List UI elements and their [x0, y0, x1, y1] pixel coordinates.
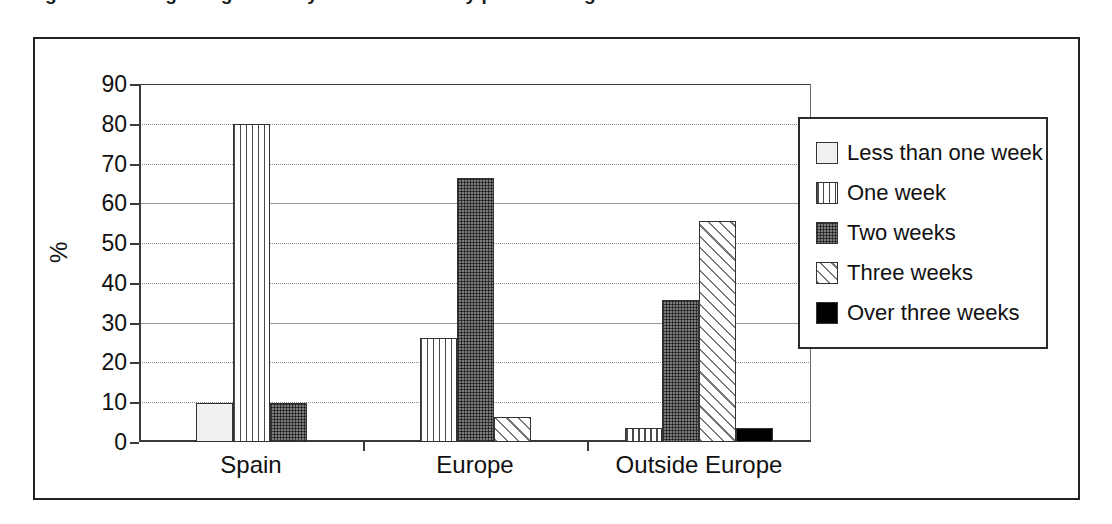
y-tick-mark-90 — [130, 84, 139, 86]
legend-swatch-icon-diagonal-hatch — [816, 262, 838, 284]
legend-item-one-week: One week — [816, 173, 1032, 213]
y-tick-label-60: 60 — [101, 190, 127, 217]
bar-europe-two-weeks — [457, 178, 494, 442]
y-tick-mark-0 — [130, 442, 139, 444]
bar-outside-europe-over-three-weeks — [736, 428, 773, 442]
y-tick-label-10: 10 — [101, 389, 127, 416]
y-tick-mark-30 — [130, 323, 139, 325]
gridline-90 — [139, 84, 811, 85]
y-tick-mark-20 — [130, 362, 139, 364]
chart-legend: Less than one weekOne weekTwo weeksThree… — [798, 117, 1048, 349]
legend-swatch-icon-solid-black — [816, 302, 838, 324]
y-axis-tick-labels: 9080706050403020100 — [75, 84, 127, 442]
legend-item-less-than-one-week: Less than one week — [816, 133, 1032, 173]
y-axis-title: % — [45, 242, 73, 263]
y-tick-mark-60 — [130, 203, 139, 205]
legend-label: One week — [847, 182, 946, 204]
x-axis-tick-labels: SpainEuropeOutside Europe — [139, 451, 811, 491]
bar-spain-less-than-one-week — [196, 403, 233, 442]
bar-spain-one-week — [233, 124, 270, 442]
figure-frame: % 9080706050403020100 SpainEuropeOutside… — [33, 37, 1080, 500]
x-tick-mark-1 — [363, 442, 365, 451]
y-axis-line — [139, 84, 141, 442]
x-tick-label-europe: Europe — [436, 451, 513, 479]
y-tick-label-50: 50 — [101, 230, 127, 257]
legend-item-three-weeks: Three weeks — [816, 253, 1032, 293]
bar-outside-europe-three-weeks — [699, 221, 736, 442]
legend-label: Three weeks — [847, 262, 973, 284]
bar-europe-three-weeks — [494, 417, 531, 442]
y-tick-mark-80 — [130, 124, 139, 126]
legend-label: Two weeks — [847, 222, 956, 244]
legend-item-over-three-weeks: Over three weeks — [816, 293, 1032, 333]
legend-swatch-icon-vertical-stripes — [816, 182, 838, 204]
legend-swatch-icon-dark-stipple — [816, 222, 838, 244]
bar-outside-europe-one-week — [625, 428, 662, 442]
y-tick-mark-70 — [130, 164, 139, 166]
figure-caption-text: Figure 8. Average length of stay in dest… — [28, 0, 710, 5]
y-tick-label-30: 30 — [101, 309, 127, 336]
y-tick-label-70: 70 — [101, 150, 127, 177]
y-tick-label-0: 0 — [114, 429, 127, 456]
x-tick-label-outside-europe: Outside Europe — [616, 451, 783, 479]
bar-outside-europe-two-weeks — [662, 300, 699, 442]
legend-label: Less than one week — [847, 142, 1043, 164]
legend-label: Over three weeks — [847, 302, 1019, 324]
y-tick-label-40: 40 — [101, 269, 127, 296]
plot-area — [139, 84, 811, 442]
figure-caption-strip: Figure 8. Average length of stay in dest… — [0, 0, 1112, 16]
y-tick-label-80: 80 — [101, 110, 127, 137]
y-tick-mark-10 — [130, 402, 139, 404]
bar-europe-one-week — [420, 338, 457, 442]
y-tick-mark-40 — [130, 283, 139, 285]
y-tick-label-90: 90 — [101, 71, 127, 98]
bar-spain-two-weeks — [270, 403, 307, 442]
y-tick-label-20: 20 — [101, 349, 127, 376]
legend-item-two-weeks: Two weeks — [816, 213, 1032, 253]
x-tick-label-spain: Spain — [220, 451, 281, 479]
legend-swatch-icon-plain-light — [816, 142, 838, 164]
y-tick-mark-50 — [130, 243, 139, 245]
x-tick-mark-2 — [587, 442, 589, 451]
